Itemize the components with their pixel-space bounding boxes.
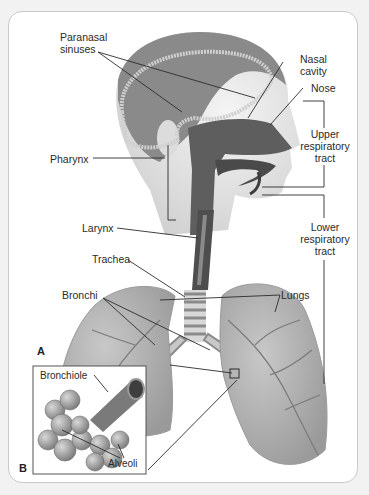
label-lower-respiratory-tract: Lower respiratory tract xyxy=(296,221,354,257)
head xyxy=(116,32,300,235)
label-larynx: Larynx xyxy=(82,222,114,234)
panel-label-b: B xyxy=(19,462,27,474)
label-line: Paranasal xyxy=(60,31,107,43)
label-line: tract xyxy=(296,152,354,164)
label-line: Nasal xyxy=(300,53,327,65)
label-paranasal-sinuses: Paranasal sinuses xyxy=(60,31,107,55)
label-line: cavity xyxy=(300,65,327,77)
label-nasal-cavity: Nasal cavity xyxy=(300,53,327,77)
label-line: respiratory xyxy=(296,140,354,152)
label-nose: Nose xyxy=(311,82,336,94)
label-alveoli: Alveoli xyxy=(108,458,137,470)
label-line: Upper xyxy=(296,128,354,140)
label-line: Lower xyxy=(296,221,354,233)
label-line: respiratory xyxy=(296,233,354,245)
label-pharynx: Pharynx xyxy=(50,153,89,165)
label-bronchi: Bronchi xyxy=(62,289,98,301)
label-line: sinuses xyxy=(60,43,107,55)
label-bronchiole: Bronchiole xyxy=(40,370,87,382)
panel-label-a: A xyxy=(37,345,45,357)
label-line: tract xyxy=(296,245,354,257)
label-lungs: Lungs xyxy=(281,289,310,301)
label-upper-respiratory-tract: Upper respiratory tract xyxy=(296,128,354,164)
label-trachea: Trachea xyxy=(92,253,130,265)
